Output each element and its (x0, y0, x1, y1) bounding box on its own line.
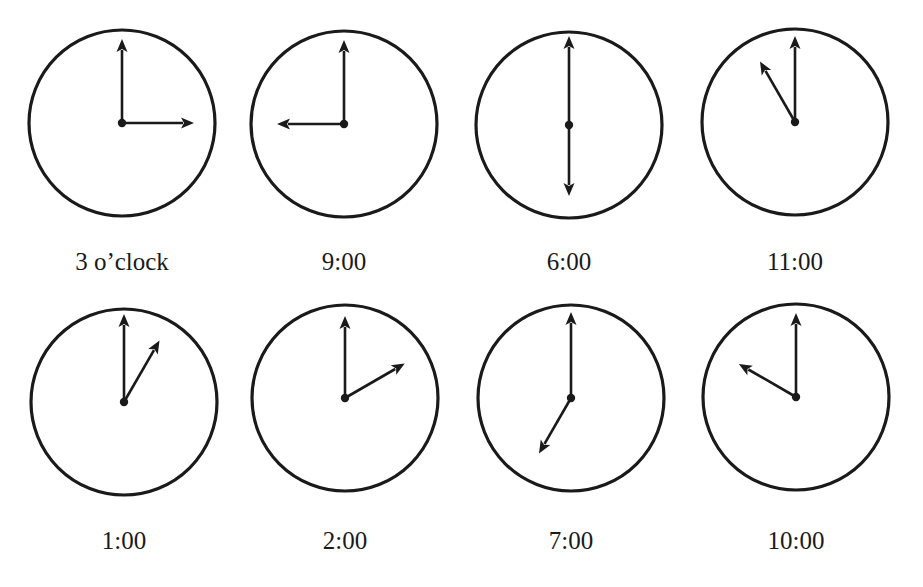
clock-time-label: 11:00 (767, 248, 823, 275)
clock-center-dot (341, 394, 349, 402)
clock-center-dot (791, 118, 799, 126)
clock-time-label: 10:00 (768, 527, 825, 554)
clock-time-label: 6:00 (547, 248, 591, 275)
clock-figure: 3 o’clock9:006:0011:001:002:007:0010:00 (0, 0, 923, 587)
clock: 6:00 (476, 32, 662, 275)
clock: 7:00 (478, 305, 664, 554)
clock-time-label: 3 o’clock (75, 248, 169, 275)
clock: 9:00 (251, 31, 437, 275)
clock-center-dot (120, 398, 128, 406)
clock-center-dot (792, 393, 800, 401)
clock-time-label: 2:00 (323, 527, 367, 554)
clock-time-label: 7:00 (549, 527, 593, 554)
clock: 2:00 (252, 305, 438, 554)
clock-center-dot (340, 120, 348, 128)
clock-grid: 3 o’clock9:006:0011:001:002:007:0010:00 (29, 29, 889, 554)
clock: 11:00 (702, 29, 888, 275)
clock-center-dot (118, 119, 126, 127)
clock-time-label: 1:00 (102, 527, 146, 554)
clock: 10:00 (703, 304, 889, 554)
clock-time-label: 9:00 (322, 248, 366, 275)
clock-center-dot (567, 394, 575, 402)
clock: 1:00 (31, 309, 217, 554)
clock-center-dot (565, 121, 573, 129)
clock: 3 o’clock (29, 30, 215, 275)
